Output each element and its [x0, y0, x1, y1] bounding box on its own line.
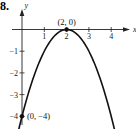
point-marker	[20, 114, 24, 118]
point-marker	[64, 27, 68, 31]
x-tick-label: 4	[109, 32, 113, 41]
y-tick-label: −1	[9, 47, 18, 56]
x-tick-label: 1	[42, 32, 46, 41]
y-tick-label: −4	[9, 112, 18, 121]
point-label: (0, −4)	[27, 111, 50, 121]
y-tick-label: −2	[9, 69, 18, 78]
y-axis-arrow-icon	[20, 9, 25, 16]
x-tick-label: 2	[65, 32, 69, 41]
parabola-plot: xy1234−1−2−3−4(2, 0)(0, −4)	[0, 0, 136, 129]
y-tick-label: −3	[9, 91, 18, 100]
x-tick-label: 3	[87, 32, 91, 41]
point-label: (2, 0)	[57, 17, 76, 27]
y-axis-label: y	[24, 1, 29, 10]
x-axis-arrow-icon	[123, 27, 130, 32]
x-axis-label: x	[132, 25, 136, 34]
